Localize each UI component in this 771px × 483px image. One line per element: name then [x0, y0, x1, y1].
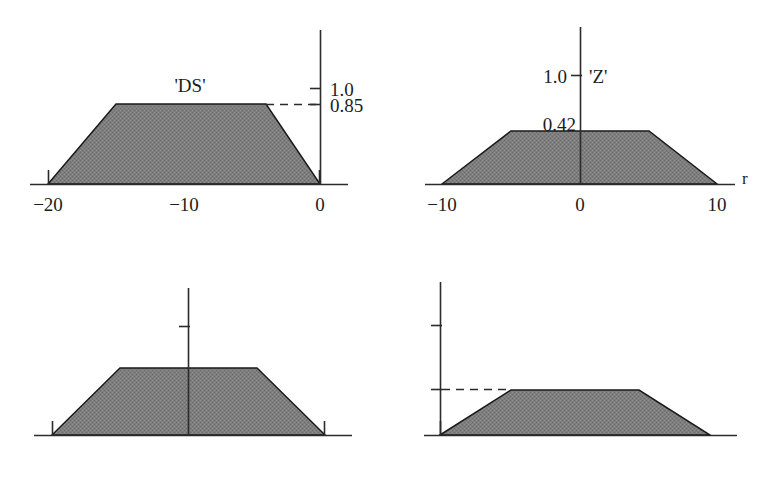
plot-top-right — [0, 0, 771, 240]
x-tick-label-10-top-right: 10 — [708, 195, 727, 214]
y-tick-label-1-0-top-right: 1.0 — [543, 67, 567, 86]
x-axis-name-top-right: r — [742, 170, 748, 187]
set-label-z-top: 'Z' — [589, 67, 607, 86]
y-tick-label-0-42-top-right: 0.42 — [543, 115, 576, 134]
panel-top-right: 1.0 'Z' 0.42 −10 0 10 r — [0, 0, 771, 240]
panel-bottom-right: 1.0 0.42 'US' 0 10 20 r — [0, 250, 771, 483]
trapezoid-z-top — [442, 131, 717, 184]
membership-function-figure: 'DS' 1.0 0.85 −20 −10 0 1.0 — [0, 0, 771, 483]
plot-bottom-right — [0, 250, 771, 483]
trapezoid-us — [440, 390, 710, 435]
x-tick-label-zero-top-right: 0 — [575, 195, 585, 214]
x-tick-label-minus10-top-right: −10 — [427, 195, 457, 214]
